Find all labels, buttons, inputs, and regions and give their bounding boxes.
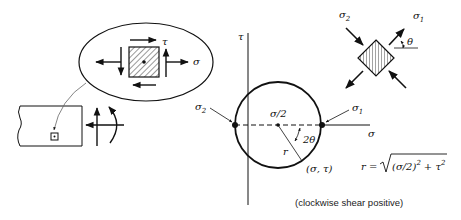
tau-axis-label: τ [238, 31, 244, 42]
radius-label: r [283, 146, 289, 157]
radius-formula: r = (σ/2)2+ τ2 [361, 154, 447, 172]
principal-sigma2-label: σ2 [339, 9, 351, 23]
caption: (clockwise shear positive) [295, 197, 403, 208]
sigma1-label: σ1 [352, 102, 363, 116]
formula-inner: (σ/2)2+ τ2 [392, 159, 446, 172]
radius-line [278, 125, 302, 161]
sigma1-point [319, 122, 325, 128]
stress-element-callout: τ σ [79, 23, 213, 101]
theta-label: θ [407, 36, 413, 47]
mohr-circle-diagram: τ σ τ σ σ/2 2θ r (σ, τ) σ2 σ1 [0, 0, 461, 220]
sigma-label-element: σ [193, 56, 201, 67]
sigma2-label: σ2 [195, 101, 207, 115]
sigma2-point [232, 122, 238, 128]
principal-sigma1-label: σ1 [413, 10, 424, 24]
beam [18, 83, 124, 146]
principal-element: θ σ2 σ1 [339, 9, 424, 88]
point-label: (σ, τ) [306, 163, 333, 174]
sigma-axis-label: σ [368, 128, 376, 139]
two-theta-arc-arrow [295, 128, 300, 141]
element-center-dot [142, 60, 146, 64]
rotated-element [358, 40, 394, 76]
sigma2-arrow-in-bottom [389, 71, 406, 88]
sigma2-leader [210, 108, 232, 122]
sigma1-arrow-down [346, 71, 363, 88]
tau-label-element: τ [162, 36, 168, 47]
theta-arc [401, 41, 403, 48]
sigma2-arrow-in-top [346, 28, 363, 45]
sigma1-leader [326, 110, 349, 122]
formula-lhs: r = [361, 161, 377, 172]
mohr-circle: τ σ σ/2 2θ r (σ, τ) σ2 σ1 [195, 31, 376, 205]
two-theta-label: 2θ [302, 134, 315, 145]
center-label: σ/2 [270, 108, 287, 119]
